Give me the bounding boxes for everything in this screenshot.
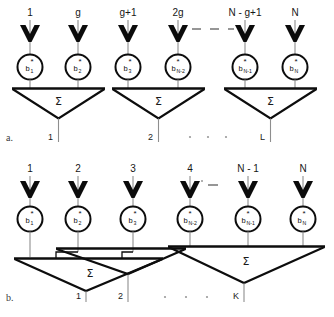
output-label-a-2: 2 bbox=[148, 132, 153, 142]
weight-sub-a-4: N-2 bbox=[177, 68, 185, 74]
antenna-icon-a-2 bbox=[68, 20, 88, 56]
weight-star-b-1: * bbox=[31, 209, 34, 218]
antenna-icon-a-5 bbox=[235, 20, 255, 56]
weight-base-b-4: b bbox=[184, 216, 188, 225]
panel-b: 1 2 3 4 N - 1 N bbox=[6, 163, 325, 303]
weight-sub-b-6: N bbox=[303, 220, 307, 226]
weight-block-b-1: b * 1 bbox=[18, 207, 43, 258]
weight-base-a-6: b bbox=[290, 64, 294, 73]
weight-block-a-5: b * N-1 bbox=[233, 55, 258, 90]
antenna-icon-b-6 bbox=[293, 176, 313, 208]
summation-triangle-a-3: Σ L bbox=[224, 89, 317, 143]
weight-base-b-1: b bbox=[26, 216, 30, 225]
sigma-symbol-a-1: Σ bbox=[55, 95, 62, 108]
weight-block-b-6: b * N bbox=[291, 207, 316, 247]
beamforming-architecture-figure: 1 g g+1 2g N - g+1 N bbox=[0, 0, 334, 317]
summation-triangle-a-2: Σ 2 bbox=[112, 89, 205, 143]
weight-sub-b-2: 2 bbox=[79, 220, 82, 226]
weight-base-b-5: b bbox=[242, 216, 246, 225]
antenna-icon-b-2 bbox=[68, 176, 88, 208]
panel-label-a: a. bbox=[6, 132, 13, 143]
weight-base-a-2: b bbox=[74, 64, 78, 73]
weight-sub-b-4: N-2 bbox=[189, 220, 197, 226]
output-label-b-3: K bbox=[233, 291, 239, 301]
output-label-a-3: L bbox=[260, 132, 265, 142]
weight-base-b-6: b bbox=[298, 216, 302, 225]
antenna-icon-b-3 bbox=[123, 176, 143, 208]
antenna-label-a-3: g+1 bbox=[120, 7, 137, 18]
weight-star-a-1: * bbox=[31, 57, 34, 66]
antenna-icon-a-6 bbox=[285, 20, 305, 56]
antenna-icon-b-4 bbox=[180, 176, 200, 208]
weight-block-a-2: b * 2 bbox=[66, 55, 91, 90]
weight-sub-b-3: 3 bbox=[134, 220, 137, 226]
antenna-label-b-1: 1 bbox=[27, 163, 33, 174]
output-ellipsis-a bbox=[189, 136, 227, 138]
weight-star-b-4: * bbox=[189, 209, 192, 218]
antenna-label-b-4: 4 bbox=[187, 163, 193, 174]
weight-star-a-2: * bbox=[79, 57, 82, 66]
output-label-b-1: 1 bbox=[76, 291, 81, 301]
summation-triangle-b-1: Σ 1 bbox=[14, 259, 163, 303]
output-label-a-1: 1 bbox=[48, 132, 53, 142]
antenna-icon-a-4 bbox=[168, 20, 188, 56]
weight-base-a-3: b bbox=[124, 64, 128, 73]
antenna-icon-a-3 bbox=[118, 20, 138, 56]
weight-base-b-3: b bbox=[129, 216, 133, 225]
panel-a: 1 g g+1 2g N - g+1 N bbox=[6, 7, 317, 143]
weight-base-b-2: b bbox=[74, 216, 78, 225]
sigma-symbol-b-3: Σ bbox=[243, 255, 250, 268]
sigma-symbol-a-3: Σ bbox=[267, 95, 274, 108]
weight-star-a-5: * bbox=[244, 57, 247, 66]
weight-star-a-3: * bbox=[129, 57, 132, 66]
weight-star-b-3: * bbox=[134, 209, 137, 218]
antenna-label-b-6: N bbox=[299, 163, 306, 174]
antenna-label-b-2: 2 bbox=[75, 163, 81, 174]
antenna-label-b-5: N - 1 bbox=[237, 163, 259, 174]
antenna-icon-b-1 bbox=[20, 176, 40, 208]
antenna-icon-b-5 bbox=[238, 176, 258, 208]
weight-base-a-4: b bbox=[172, 64, 176, 73]
weight-base-a-5: b bbox=[239, 64, 243, 73]
panel-label-b: b. bbox=[6, 292, 14, 303]
antenna-icon-a-1 bbox=[20, 20, 40, 56]
summation-triangle-b-3: Σ K bbox=[168, 247, 325, 303]
weight-star-a-4: * bbox=[177, 57, 180, 66]
weight-block-a-6: b * N bbox=[283, 55, 308, 90]
output-ellipsis-b bbox=[164, 296, 208, 298]
weight-star-b-2: * bbox=[79, 209, 82, 218]
output-label-b-2: 2 bbox=[118, 291, 123, 301]
weight-sub-b-5: N-1 bbox=[247, 220, 255, 226]
weight-sub-a-3: 3 bbox=[129, 68, 132, 74]
weight-sub-a-1: 1 bbox=[31, 68, 34, 74]
antenna-label-a-5: N - g+1 bbox=[228, 7, 262, 18]
weight-star-a-6: * bbox=[295, 57, 298, 66]
antenna-label-a-2: g bbox=[75, 7, 81, 18]
antenna-label-a-6: N bbox=[291, 7, 298, 18]
weight-block-a-4: b * N-2 bbox=[166, 55, 191, 90]
weight-sub-a-6: N bbox=[295, 68, 299, 74]
summation-triangle-a-1: Σ 1 bbox=[12, 89, 105, 143]
weight-block-a-3: b * 3 bbox=[116, 55, 141, 90]
weight-sub-a-5: N-1 bbox=[244, 68, 252, 74]
antenna-label-b-3: 3 bbox=[130, 163, 136, 174]
weight-star-b-5: * bbox=[247, 209, 250, 218]
weight-block-a-1: b * 1 bbox=[18, 55, 43, 90]
antenna-label-a-1: 1 bbox=[27, 7, 33, 18]
ellipsis-dashes-b bbox=[201, 180, 218, 185]
sigma-symbol-a-2: Σ bbox=[155, 95, 162, 108]
weight-block-b-3: b * 3 bbox=[121, 207, 146, 253]
weight-sub-a-2: 2 bbox=[79, 68, 82, 74]
weight-block-b-5: b * N-1 bbox=[236, 207, 261, 247]
weight-block-b-4: b * N-2 bbox=[178, 207, 203, 247]
weight-sub-b-1: 1 bbox=[31, 220, 34, 226]
sigma-symbol-b-1: Σ bbox=[87, 267, 94, 280]
antenna-label-a-4: 2g bbox=[172, 7, 183, 18]
weight-block-b-2: b * 2 bbox=[66, 207, 91, 253]
weight-star-b-6: * bbox=[303, 209, 306, 218]
weight-base-a-1: b bbox=[26, 64, 30, 73]
